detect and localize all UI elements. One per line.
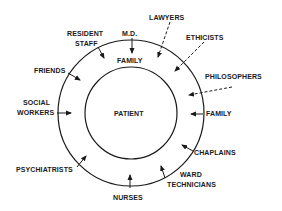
arrow-philosophers [189, 87, 232, 95]
label-psychiatrists: PSYCHIATRISTS [16, 165, 73, 174]
label-philosophers: PHILOSOPHERS [205, 72, 262, 81]
label-patient: PATIENT [114, 109, 144, 118]
label-technicians: TECHNICIANS [167, 180, 216, 189]
label-family-inner: FAMILY [117, 56, 143, 65]
arrow-ethicists [175, 42, 204, 71]
label-friends: FRIENDS [34, 66, 65, 75]
label-lawyers: LAWYERS [149, 13, 184, 22]
label-md: M.D. [122, 29, 137, 38]
arrow-lawyers [158, 22, 170, 57]
label-ward: WARD [180, 170, 202, 179]
arrow-psychiatrists [77, 156, 86, 167]
label-resident: RESIDENT [67, 29, 103, 38]
arrow-chaplains [182, 145, 193, 151]
arrow-friends [68, 73, 80, 80]
label-ethicists: ETHICISTS [186, 33, 223, 42]
label-nurses: NURSES [113, 193, 143, 202]
arrow-ward-technicians [161, 166, 165, 178]
label-workers: WORKERS [17, 108, 54, 117]
arrow-resident-staff [98, 47, 104, 58]
label-chaplains: CHAPLAINS [194, 148, 236, 157]
patient-influence-diagram: RESIDENT STAFF M.D. LAWYERS ETHICISTS PH… [0, 0, 282, 211]
label-social: SOCIAL [23, 98, 50, 107]
label-family-outer: FAMILY [206, 109, 232, 118]
label-staff: STAFF [75, 39, 98, 48]
